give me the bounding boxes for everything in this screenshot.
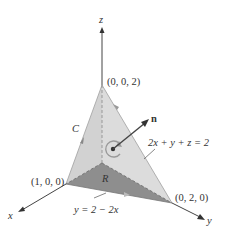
normal-n-label: n: [151, 113, 157, 124]
y-axis: [172, 203, 200, 217]
boundary-leader-line: [94, 193, 106, 198]
z-axis-arrow-icon: [100, 27, 105, 33]
x-axis: [22, 184, 66, 210]
y-axis-label: y: [206, 215, 212, 226]
boundary-line-label: y = 2 − 2x: [73, 204, 119, 215]
point-y-intercept: (0, 2, 0): [175, 192, 209, 204]
z-axis-label: z: [98, 14, 103, 25]
point-z-intercept: (0, 0, 2): [107, 76, 141, 88]
x-axis-label: x: [7, 210, 13, 221]
region-r-label: R: [101, 173, 109, 184]
x-axis-arrow-icon: [18, 207, 25, 213]
y-axis-arrow-icon: [197, 214, 205, 220]
plane-equation-label: 2x + y + z = 2: [148, 137, 210, 148]
curve-c-label: C: [72, 123, 80, 134]
plane-leader-line: [144, 149, 155, 159]
point-x-intercept: (1, 0, 0): [31, 176, 65, 188]
surface-diagram: z x y (0, 0, 2) (1, 0, 0) (0, 2, 0) C R …: [0, 0, 228, 237]
